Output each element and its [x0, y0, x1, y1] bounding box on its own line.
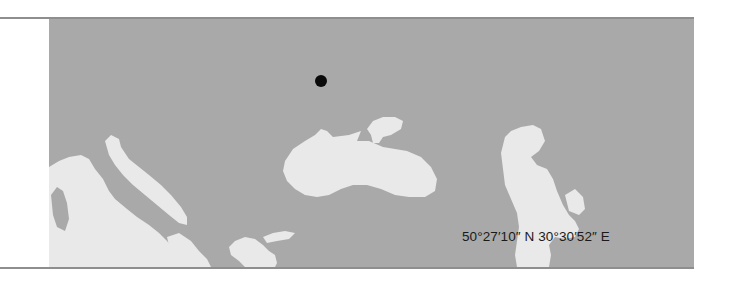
location-marker-icon[interactable]: [315, 75, 327, 87]
location-map[interactable]: 50°27′10″ N 30°30′52″ E: [49, 19, 694, 267]
aegean-sea: [229, 231, 295, 267]
caspian-sea: [501, 125, 585, 267]
black-sea: [283, 129, 437, 197]
coordinates-label: 50°27′10″ N 30°30′52″ E: [462, 229, 610, 244]
ionian-sea: [167, 233, 211, 267]
sea-of-azov: [367, 117, 403, 143]
bottom-divider: [0, 267, 694, 269]
